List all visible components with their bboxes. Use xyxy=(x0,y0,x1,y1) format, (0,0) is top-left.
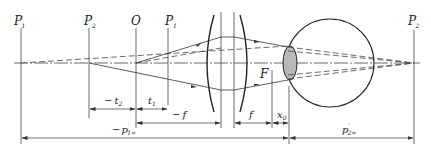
dashed-ray-4 xyxy=(288,51,414,63)
dashed-ray-5 xyxy=(288,63,414,79)
dashed-ray-6 xyxy=(288,63,414,75)
label-x0: x0 xyxy=(277,109,287,121)
label-fprime: F′ xyxy=(259,67,270,81)
label-p2: P2 xyxy=(83,14,96,29)
label-neg-p1inf: −p′1∞ xyxy=(112,122,136,136)
label-neg-f: −f xyxy=(172,109,188,120)
label-p2prime: P′2 xyxy=(407,14,419,29)
label-neg-t2: −t2 xyxy=(104,95,122,107)
dashed-ray-3 xyxy=(288,47,414,63)
label-fprime-dim: f′ xyxy=(248,108,255,120)
label-o: O xyxy=(131,14,141,28)
dashed-ray-1 xyxy=(21,46,288,63)
label-p1: P1 xyxy=(164,14,177,29)
lens-left-surface xyxy=(207,15,214,112)
label-p2inf: p′2∞ xyxy=(342,122,357,136)
lens-right-surface xyxy=(240,15,247,112)
ray-lower xyxy=(89,63,288,90)
optical-diagram: P′1 P2 O P1 F′ P′2 −t2 t1 −f f′ x0 −p′1∞… xyxy=(0,0,431,155)
label-t1: t1 xyxy=(148,95,156,107)
label-p1prime: P′1 xyxy=(13,14,25,29)
